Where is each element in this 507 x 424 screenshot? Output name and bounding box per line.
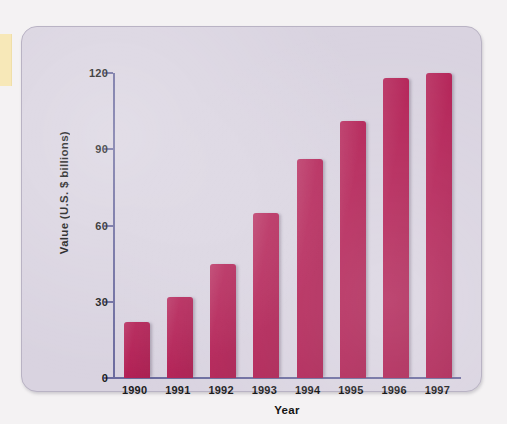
x-tick-label-1992: 1992 (200, 384, 243, 396)
bar-1992[interactable] (210, 264, 236, 378)
y-tick-label: 0 (102, 372, 108, 384)
bar-1993[interactable] (253, 213, 279, 378)
x-tick-label-1995: 1995 (329, 384, 372, 396)
y-tick-label: 60 (95, 220, 108, 232)
x-tick-label-1993: 1993 (243, 384, 286, 396)
bar-slot (158, 73, 201, 378)
bar-1995[interactable] (340, 121, 366, 378)
x-tick-label-1997: 1997 (416, 384, 459, 396)
bar-slot (115, 73, 158, 378)
bar-slot (202, 73, 245, 378)
y-tick-label: 90 (95, 143, 108, 155)
x-tick-label-1994: 1994 (286, 384, 329, 396)
y-tick-label: 30 (95, 296, 108, 308)
bar-1994[interactable] (297, 159, 323, 378)
bar-slot (245, 73, 288, 378)
plot-area: 0306090120 19901991199219931994199519961… (113, 73, 461, 378)
x-tick-label-1991: 1991 (156, 384, 199, 396)
bar-1996[interactable] (383, 78, 409, 378)
bar-slot (375, 73, 418, 378)
bar-1991[interactable] (167, 297, 193, 378)
figure-root: Value (U.S. $ billions) 0306090120 19901… (0, 0, 507, 424)
chart-panel: Value (U.S. $ billions) 0306090120 19901… (21, 26, 482, 392)
bar-1990[interactable] (124, 322, 150, 378)
margin-tab (0, 34, 12, 86)
bar-slot (418, 73, 461, 378)
y-axis-title: Value (U.S. $ billions) (58, 131, 76, 254)
x-tick-label-1996: 1996 (373, 384, 416, 396)
y-tick-label: 120 (89, 67, 108, 79)
x-tick-label-1990: 1990 (113, 384, 156, 396)
bar-1997[interactable] (426, 73, 452, 378)
x-axis-title: Year (113, 404, 461, 416)
bar-slot (331, 73, 374, 378)
bar-slot (288, 73, 331, 378)
bars-layer (115, 73, 461, 378)
